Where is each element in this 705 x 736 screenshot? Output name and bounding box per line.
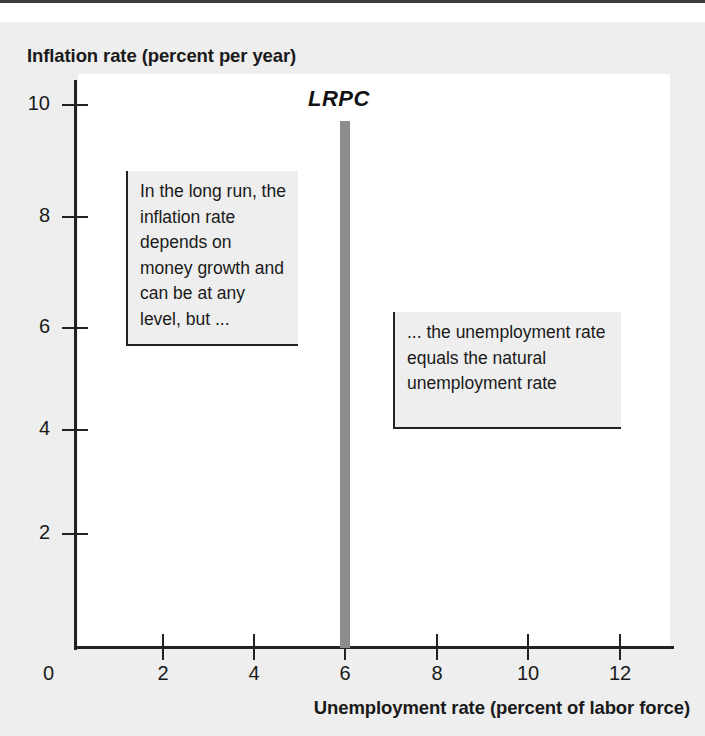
y-tick-8 (62, 216, 88, 218)
y-tick-4 (62, 429, 88, 431)
x-tick-label-12: 12 (590, 662, 650, 685)
x-tick-8 (436, 634, 438, 660)
page-top-rule (0, 0, 705, 3)
y-axis-line (74, 80, 77, 650)
x-tick-label-10: 10 (498, 662, 558, 685)
x-tick-label-6: 6 (315, 662, 375, 685)
natural-rate-callout-text: ... the unemployment rate equals the nat… (407, 320, 611, 397)
lrpc-curve (340, 121, 350, 648)
y-tick-10 (62, 104, 88, 106)
x-axis-title: Unemployment rate (percent of labor forc… (0, 697, 690, 719)
x-tick-label-2: 2 (133, 662, 193, 685)
y-tick-label-10: 10 (10, 92, 50, 115)
figure-page: Inflation rate (percent per year) 10 8 6… (0, 0, 705, 736)
x-axis-line (74, 646, 674, 649)
x-tick-2 (162, 634, 164, 660)
origin-label: 0 (14, 662, 54, 685)
y-tick-label-8: 8 (10, 204, 50, 227)
y-tick-2 (62, 533, 88, 535)
y-axis-title: Inflation rate (percent per year) (27, 45, 296, 67)
x-tick-10 (527, 634, 529, 660)
y-tick-label-2: 2 (10, 521, 50, 544)
long-run-callout-text: In the long run, the inflation rate depe… (140, 179, 288, 332)
x-tick-label-4: 4 (224, 662, 284, 685)
x-tick-label-8: 8 (407, 662, 467, 685)
lrpc-curve-label: LRPC (308, 86, 370, 112)
y-tick-6 (62, 327, 88, 329)
long-run-callout: In the long run, the inflation rate depe… (126, 171, 298, 346)
x-tick-12 (619, 634, 621, 660)
natural-rate-callout: ... the unemployment rate equals the nat… (393, 312, 621, 429)
y-tick-label-6: 6 (10, 315, 50, 338)
x-tick-4 (253, 634, 255, 660)
y-tick-label-4: 4 (10, 417, 50, 440)
